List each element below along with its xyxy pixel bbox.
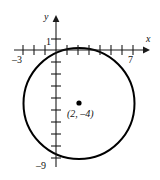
y-axis-label: y: [44, 12, 48, 22]
center-point-dot: [76, 100, 81, 105]
x-axis-label: x: [146, 34, 150, 44]
y-tick-label-neg9: –9: [36, 161, 46, 171]
graph-canvas: [0, 0, 160, 180]
y-tick-label-1: 1: [46, 37, 51, 47]
y-axis-arrow-icon: [53, 15, 60, 22]
x-axis-arrow-icon: [143, 47, 150, 54]
circle-graph-figure: y x 1 –3 7 –9 (2, –4): [0, 0, 160, 180]
x-tick-label-7: 7: [128, 55, 133, 65]
center-point-label: (2, –4): [67, 109, 94, 119]
x-tick-label-neg3: –3: [12, 55, 22, 65]
